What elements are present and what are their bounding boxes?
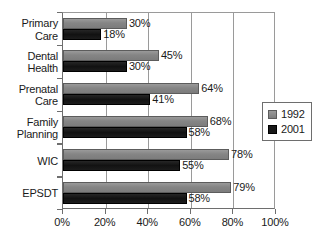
bar-1992-wic: [63, 149, 229, 160]
gridline-40: [148, 13, 149, 208]
legend-swatch-1992-icon: [268, 110, 277, 119]
legend-swatch-2001-icon: [268, 125, 277, 134]
bar-group-epsdt: 79% 58%: [63, 180, 326, 205]
bar-2001-prenatal-care: [63, 94, 150, 105]
category-label-line: Family: [0, 116, 58, 129]
legend-label-1992: 1992: [281, 109, 305, 120]
x-axis-label-20: 20%: [82, 216, 128, 229]
bar-row-2001: 55%: [63, 160, 326, 171]
category-label-family-planning: Family Planning: [0, 116, 58, 141]
category-label-epsdt: EPSDT: [0, 187, 58, 200]
gridline-60: [191, 13, 192, 208]
bar-2001-primary-care: [63, 29, 101, 40]
bar-2001-epsdt: [63, 193, 187, 204]
x-axis-label-40: 40%: [124, 216, 170, 229]
bar-group-dental-health: 45% 30%: [63, 49, 326, 74]
y-axis-tick: [57, 176, 62, 177]
gridline-20: [106, 13, 107, 208]
bar-value-1992-dental-health: 45%: [161, 50, 182, 61]
x-axis-label-0: 0%: [39, 216, 85, 229]
bar-value-2001-family-planning: 58%: [189, 127, 210, 138]
bar-value-2001-dental-health: 30%: [129, 61, 150, 72]
x-axis-label-80: 80%: [209, 216, 255, 229]
bar-group-wic: 78% 55%: [63, 147, 326, 172]
bar-row-1992: 45%: [63, 50, 326, 61]
bar-row-2001: 18%: [63, 29, 326, 40]
category-label-wic: WIC: [0, 155, 58, 168]
bar-row-1992: 64%: [63, 83, 326, 94]
x-axis-tick: [190, 209, 191, 214]
bar-2001-wic: [63, 160, 180, 171]
category-label-line: Primary: [0, 17, 58, 30]
category-label-line: Prenatal: [0, 83, 58, 96]
bar-value-1992-primary-care: 30%: [129, 18, 150, 29]
bar-1992-prenatal-care: [63, 83, 199, 94]
bar-chart: Primary Care 30% 18% Dental Health 45% 3…: [0, 0, 326, 246]
bar-row-1992: 30%: [63, 18, 326, 29]
category-label-line: Dental: [0, 50, 58, 63]
y-axis-tick: [57, 78, 62, 79]
bar-2001-family-planning: [63, 127, 187, 138]
category-label-prenatal-care: Prenatal Care: [0, 83, 58, 108]
category-label-line: Health: [0, 62, 58, 75]
gridline-80: [233, 13, 234, 208]
bar-value-1992-family-planning: 68%: [210, 116, 231, 127]
x-axis-tick: [275, 209, 276, 214]
bar-value-1992-prenatal-care: 64%: [201, 83, 222, 94]
x-axis-tick: [62, 209, 63, 214]
x-axis-label-60: 60%: [167, 216, 213, 229]
bar-group-primary-care: 30% 18%: [63, 16, 326, 41]
bar-value-1992-epsdt: 79%: [233, 182, 254, 193]
y-axis-tick: [57, 111, 62, 112]
bar-value-2001-wic: 55%: [182, 160, 203, 171]
legend-item-1992: 1992: [268, 107, 311, 122]
bar-value-2001-prenatal-care: 41%: [152, 94, 173, 105]
bar-row-2001: 58%: [63, 193, 326, 204]
y-axis-tick: [57, 143, 62, 144]
bar-1992-family-planning: [63, 116, 208, 127]
x-axis-label-100: 100%: [252, 216, 298, 229]
y-axis-tick: [57, 12, 62, 13]
legend-item-2001: 2001: [268, 122, 311, 137]
x-axis-tick: [147, 209, 148, 214]
y-axis-tick: [57, 45, 62, 46]
category-label-line: WIC: [0, 155, 58, 168]
legend-label-2001: 2001: [281, 124, 305, 135]
x-axis-tick: [232, 209, 233, 214]
category-label-line: Care: [0, 30, 58, 43]
category-label-primary-care: Primary Care: [0, 17, 58, 42]
bar-value-2001-primary-care: 18%: [103, 29, 124, 40]
legend: 1992 2001: [262, 102, 312, 141]
bar-1992-primary-care: [63, 18, 127, 29]
category-label-line: Care: [0, 95, 58, 108]
bar-value-1992-wic: 78%: [231, 149, 252, 160]
bar-row-2001: 30%: [63, 61, 326, 72]
category-label-line: Planning: [0, 128, 58, 141]
bar-2001-dental-health: [63, 61, 127, 72]
category-label-dental-health: Dental Health: [0, 50, 58, 75]
category-label-line: EPSDT: [0, 187, 58, 200]
bar-value-2001-epsdt: 58%: [189, 193, 210, 204]
x-axis-tick: [105, 209, 106, 214]
